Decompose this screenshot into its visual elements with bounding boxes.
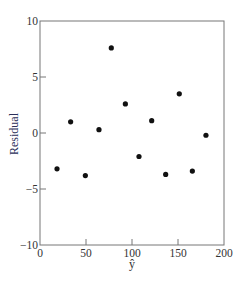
y-tick-label: 10 bbox=[27, 15, 39, 27]
data-point bbox=[177, 91, 182, 96]
plot-border bbox=[40, 21, 224, 245]
y-axis-ticks: −10−50510 bbox=[20, 15, 46, 251]
data-point bbox=[149, 118, 154, 123]
data-point bbox=[123, 101, 128, 106]
data-point bbox=[109, 45, 114, 50]
data-point bbox=[163, 172, 168, 177]
y-tick-label: 5 bbox=[32, 71, 38, 83]
data-point bbox=[68, 119, 73, 124]
y-axis-label: Residual bbox=[7, 112, 21, 155]
data-point bbox=[83, 173, 88, 178]
y-tick-label: 0 bbox=[32, 127, 38, 139]
x-tick-label: 200 bbox=[215, 247, 233, 259]
data-points bbox=[54, 45, 208, 178]
data-point bbox=[136, 154, 141, 159]
data-point bbox=[203, 133, 208, 138]
data-point bbox=[190, 168, 195, 173]
plot-frame bbox=[40, 21, 224, 245]
x-tick-label: 50 bbox=[80, 247, 92, 259]
x-tick-label: 150 bbox=[169, 247, 187, 259]
residual-scatter-chart: 050100150200 −10−50510 Residual ŷ bbox=[0, 0, 246, 285]
x-axis-label: ŷ bbox=[129, 257, 135, 271]
y-tick-label: −10 bbox=[20, 239, 38, 251]
x-axis-ticks: 050100150200 bbox=[37, 239, 233, 259]
data-point bbox=[96, 127, 101, 132]
x-tick-label: 0 bbox=[37, 247, 43, 259]
data-point bbox=[54, 166, 59, 171]
y-tick-label: −5 bbox=[26, 183, 38, 195]
